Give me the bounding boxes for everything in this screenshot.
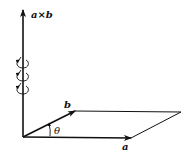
cross-product-label: a×b xyxy=(31,9,53,20)
parallelogram xyxy=(75,111,181,138)
vector-b-label: b xyxy=(64,99,71,110)
cross-product-diagram: a×b a b θ xyxy=(0,0,193,157)
angle-theta-label: θ xyxy=(54,125,60,136)
vector-a xyxy=(23,137,131,138)
vector-a-label: a xyxy=(122,141,128,152)
